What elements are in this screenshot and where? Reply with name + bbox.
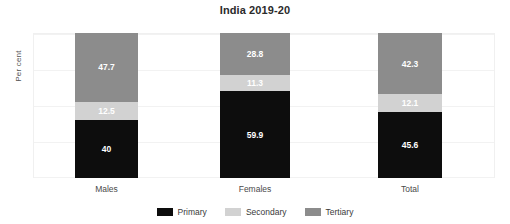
- legend-item-tertiary[interactable]: Tertiary: [305, 207, 354, 217]
- legend-swatch-icon: [225, 208, 241, 216]
- chart-legend: Primary Secondary Tertiary: [0, 207, 510, 217]
- y-axis-label: Per cent: [14, 36, 23, 96]
- legend-label: Secondary: [246, 207, 287, 217]
- bar-segment-tertiary[interactable]: 47.7: [75, 33, 138, 102]
- bar-segment-secondary[interactable]: 12.1: [378, 94, 442, 112]
- legend-item-secondary[interactable]: Secondary: [225, 207, 287, 217]
- bar-segment-tertiary[interactable]: 42.3: [378, 33, 442, 94]
- bar-stack: 28.8 11.3 59.9: [220, 33, 290, 178]
- legend-label: Primary: [178, 207, 207, 217]
- bars-layer: 47.7 12.5 40 28.8 11.3 59.9 42.3 12.1 45…: [33, 33, 495, 178]
- bar-group-females: 28.8 11.3 59.9: [220, 33, 290, 178]
- bar-segment-primary[interactable]: 40: [75, 120, 138, 178]
- legend-swatch-icon: [157, 208, 173, 216]
- x-tick-label-males: Males: [75, 184, 138, 194]
- legend-swatch-icon: [305, 208, 321, 216]
- bar-segment-secondary[interactable]: 12.5: [75, 102, 138, 120]
- bar-group-males: 47.7 12.5 40: [75, 33, 138, 178]
- bar-segment-primary[interactable]: 45.6: [378, 112, 442, 178]
- bar-segment-secondary[interactable]: 11.3: [220, 75, 290, 91]
- bar-group-total: 42.3 12.1 45.6: [378, 33, 442, 178]
- x-tick-label-total: Total: [378, 184, 442, 194]
- x-tick-label-females: Females: [220, 184, 290, 194]
- chart-title: India 2019-20: [0, 4, 510, 16]
- bar-stack: 47.7 12.5 40: [75, 33, 138, 178]
- bar-segment-primary[interactable]: 59.9: [220, 91, 290, 178]
- bar-stack: 42.3 12.1 45.6: [378, 33, 442, 178]
- bar-segment-tertiary[interactable]: 28.8: [220, 33, 290, 75]
- legend-item-primary[interactable]: Primary: [157, 207, 207, 217]
- x-axis-tick-labels: Males Females Total: [33, 184, 495, 198]
- legend-label: Tertiary: [326, 207, 354, 217]
